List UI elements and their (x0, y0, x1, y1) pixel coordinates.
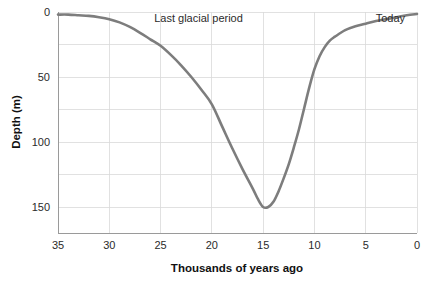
y-tick-label-0: 0 (44, 6, 50, 18)
x-tick-label-30: 30 (103, 239, 115, 251)
x-axis-title: Thousands of years ago (171, 262, 303, 274)
x-tick-label-35: 35 (52, 239, 64, 251)
x-tick-label-5: 5 (363, 239, 369, 251)
x-tick-label-20: 20 (206, 239, 218, 251)
x-tick-label-15: 15 (257, 239, 269, 251)
x-tick-label-25: 25 (154, 239, 166, 251)
annotation-1: Today (376, 12, 406, 24)
y-tick-label-150: 150 (32, 201, 50, 213)
x-tick-label-0: 0 (414, 239, 420, 251)
y-tick-label-100: 100 (32, 136, 50, 148)
x-tick-label-10: 10 (308, 239, 320, 251)
annotation-0: Last glacial period (154, 12, 243, 24)
chart-figure: 050100150 35302520151050 Last glacial pe… (0, 0, 429, 281)
y-axis-title: Depth (m) (10, 95, 22, 149)
sea-level-depth-chart: 050100150 35302520151050 Last glacial pe… (0, 0, 429, 281)
y-tick-label-50: 50 (38, 71, 50, 83)
